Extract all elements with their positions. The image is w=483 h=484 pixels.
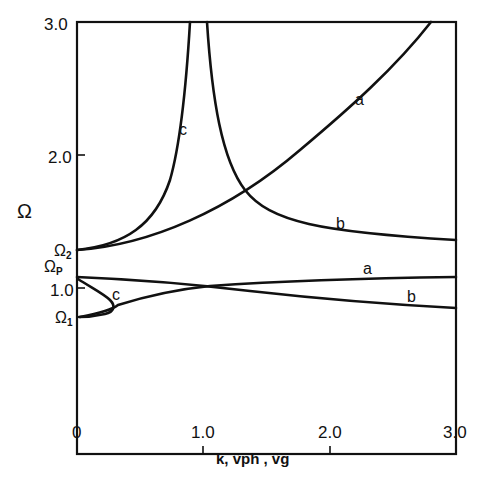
- ticks: [77, 155, 330, 454]
- omega-1-label: Ω1: [55, 309, 73, 328]
- omega-2-label: Ω2: [54, 242, 72, 261]
- plot-frame: [77, 22, 456, 454]
- x-tick-label-2: 2.0: [318, 423, 342, 442]
- y-axis-label: Ω: [17, 200, 32, 222]
- lower-branches: [77, 277, 456, 317]
- curve-label-c-upper: c: [179, 121, 187, 138]
- y-tick-label-2: 2.0: [48, 148, 72, 167]
- curve-label-c-lower: c: [112, 286, 120, 303]
- x-axis-label: k, ṽph , ṽg: [216, 450, 289, 467]
- curve-b-upper: [207, 22, 456, 240]
- y-tick-label-1: 1.0: [50, 281, 74, 300]
- dispersion-chart: 3.0 2.0 1.0 Ω2 ΩP Ω1 Ω 0 1.0 2.0 3.0 k, …: [0, 0, 483, 484]
- curve-label-a-lower: a: [363, 260, 372, 277]
- x-tick-label-3: 3.0: [443, 423, 467, 442]
- plot-border: [77, 22, 456, 454]
- curve-a-lower: [80, 277, 456, 317]
- omega-p-label: ΩP: [44, 258, 63, 277]
- x-tick-label-0: 0: [72, 423, 81, 442]
- curve-c-upper: [77, 22, 190, 250]
- curve-label-b-lower: b: [407, 288, 416, 305]
- curve-label-b-upper: b: [336, 215, 345, 232]
- x-tick-label-1: 1.0: [191, 423, 215, 442]
- upper-branches: [77, 22, 456, 250]
- y-tick-label-3: 3.0: [44, 15, 68, 34]
- curve-a-upper: [77, 22, 431, 250]
- curve-label-a-upper: a: [355, 91, 364, 108]
